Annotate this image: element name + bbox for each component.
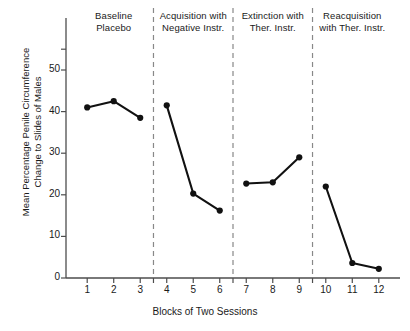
x-tick-label: 10 xyxy=(314,284,338,295)
x-axis-ticks xyxy=(87,278,379,283)
chart-figure: Mean Percentage Penile Circumference Cha… xyxy=(0,0,410,331)
y-tick-label: 30 xyxy=(30,146,60,157)
y-tick-label: 10 xyxy=(30,229,60,240)
y-tick-label: 50 xyxy=(30,63,60,74)
series-line-4 xyxy=(326,186,379,268)
phase-label-line1: Acquisition with xyxy=(148,10,238,22)
y-tick-label: 20 xyxy=(30,188,60,199)
y-axis-title: Mean Percentage Penile Circumference Cha… xyxy=(20,17,44,247)
x-tick-label: 8 xyxy=(261,284,285,295)
x-tick-label: 5 xyxy=(181,284,205,295)
phase-label-1: BaselinePlacebo xyxy=(69,10,159,33)
phase-label-4: Reacquisitionwith Ther. Instr. xyxy=(307,10,397,33)
x-tick-label: 4 xyxy=(155,284,179,295)
x-tick-label: 12 xyxy=(367,284,391,295)
phase-label-3: Extinction withTher. Instr. xyxy=(228,10,318,33)
y-axis-ticks xyxy=(61,49,66,278)
data-point xyxy=(376,266,382,272)
data-point xyxy=(111,98,117,104)
x-tick-label: 3 xyxy=(128,284,152,295)
phase-label-line2: Negative Instr. xyxy=(148,22,238,34)
x-tick-label: 1 xyxy=(75,284,99,295)
phase-label-line1: Extinction with xyxy=(228,10,318,22)
x-tick-label: 9 xyxy=(287,284,311,295)
chart-plot-area xyxy=(0,0,410,331)
y-tick-label: 0 xyxy=(30,271,60,282)
phase-label-line2: with Ther. Instr. xyxy=(307,22,397,34)
data-point xyxy=(217,208,223,214)
phase-label-line2: Placebo xyxy=(69,22,159,34)
x-tick-label: 2 xyxy=(102,284,126,295)
data-point xyxy=(243,180,249,186)
y-tick-label: 40 xyxy=(30,105,60,116)
y-axis-title-line2: Change to Slides of Males xyxy=(32,17,44,247)
phase-label-line2: Ther. Instr. xyxy=(228,22,318,34)
x-axis-title: Blocks of Two Sessions xyxy=(0,306,410,317)
phase-label-line1: Reacquisition xyxy=(307,10,397,22)
data-point xyxy=(190,190,196,196)
data-point xyxy=(137,115,143,121)
x-tick-label: 6 xyxy=(208,284,232,295)
x-tick-label: 7 xyxy=(234,284,258,295)
phase-label-line1: Baseline xyxy=(69,10,159,22)
phase-label-2: Acquisition withNegative Instr. xyxy=(148,10,238,33)
data-point xyxy=(296,154,302,160)
data-point xyxy=(84,104,90,110)
x-tick-label: 11 xyxy=(340,284,364,295)
data-point xyxy=(349,260,355,266)
y-axis-title-line1: Mean Percentage Penile Circumference xyxy=(20,17,32,247)
data-point xyxy=(270,179,276,185)
data-point xyxy=(323,183,329,189)
data-point xyxy=(164,102,170,108)
